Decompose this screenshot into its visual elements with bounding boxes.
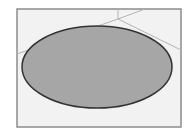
- ellipse-shape: [22, 26, 172, 108]
- ellipse-diagram: [0, 0, 193, 133]
